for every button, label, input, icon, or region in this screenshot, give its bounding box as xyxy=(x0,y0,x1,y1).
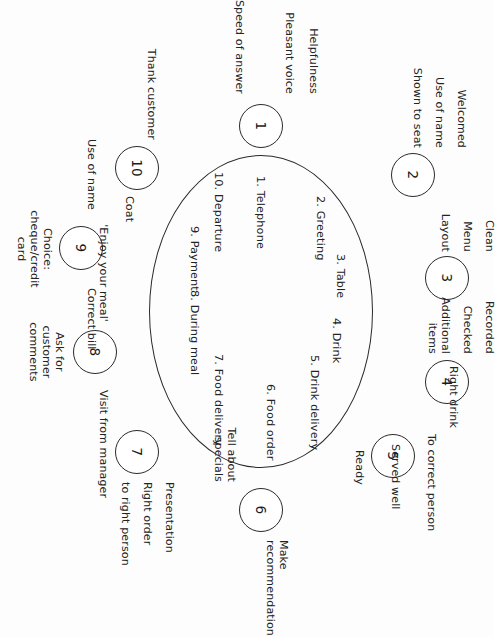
stage-node-6[interactable]: 6 xyxy=(239,488,283,532)
stage-node-1[interactable]: 1 xyxy=(239,104,283,148)
detail-10-coat: Coat xyxy=(122,196,135,256)
detail-5-right-drink: Right drink xyxy=(446,360,459,428)
detail-8-ask-for-customer-comments: Ask for customer comments xyxy=(26,316,65,388)
stage-label-4: 4. Drink xyxy=(330,318,343,363)
detail-2-welcomed: Welcomed xyxy=(454,48,467,148)
stage-label-5: 5. Drink delivery xyxy=(308,355,321,450)
detail-1-pleasant-voice: Pleasant voice xyxy=(282,0,295,94)
detail-2-use-of-name: Use of name xyxy=(432,48,445,148)
detail-5-served-well: Served well xyxy=(388,444,401,544)
detail-6-make-recommendation: Make recommendation xyxy=(263,540,289,637)
stage-label-6: 6. Food order xyxy=(264,384,277,460)
stage-node-2[interactable]: 2 xyxy=(391,153,435,197)
stage-node-10[interactable]: 10 xyxy=(115,146,159,190)
detail-9-choice-payment: Choice: cheque/credit card xyxy=(14,208,53,290)
stage-label-3: 3. Table xyxy=(334,254,347,298)
detail-10-thank-customer: Thank customer xyxy=(144,36,157,140)
stage-label-8: 8. During meal xyxy=(188,290,201,375)
detail-5-ready: Ready xyxy=(352,450,365,550)
detail-4-checked: Checked xyxy=(460,284,473,354)
stage-label-10: 10. Departure xyxy=(212,172,225,252)
detail-3-layout: Layout xyxy=(438,190,451,252)
stage-node-7[interactable]: 7 xyxy=(115,430,159,474)
stage-label-2: 2. Greeting xyxy=(314,196,327,260)
detail-9-use-of-name: Use of name xyxy=(84,118,97,210)
detail-6-tell-about-specials: Tell about specials xyxy=(211,396,237,482)
detail-8-visit-from-manager: Visit from manager xyxy=(96,390,109,510)
detail-7-right-order: Right order xyxy=(140,482,153,590)
detail-4-recorded: Recorded xyxy=(482,284,495,354)
detail-3-menu: Menu xyxy=(460,190,473,252)
detail-7-to-right-person: to right person xyxy=(118,482,131,590)
detail-5-to-correct-person: To correct person xyxy=(424,434,437,554)
detail-3-clean: Clean xyxy=(482,190,495,252)
detail-2-shown-to-seat: Shown to seat xyxy=(410,48,423,148)
detail-1-helpfulness: Helpfulness xyxy=(306,14,319,94)
detail-7-presentation: Presentation xyxy=(162,482,175,590)
detail-9-correct-bill: Correct bill xyxy=(84,288,97,380)
stage-label-1: 1. Telephone xyxy=(254,176,267,249)
detail-1-speed-of-answer: Speed of answer xyxy=(232,0,245,94)
stage-label-9: 9. Payment xyxy=(188,226,201,291)
detail-4-additional-items: Additional items xyxy=(425,284,451,354)
